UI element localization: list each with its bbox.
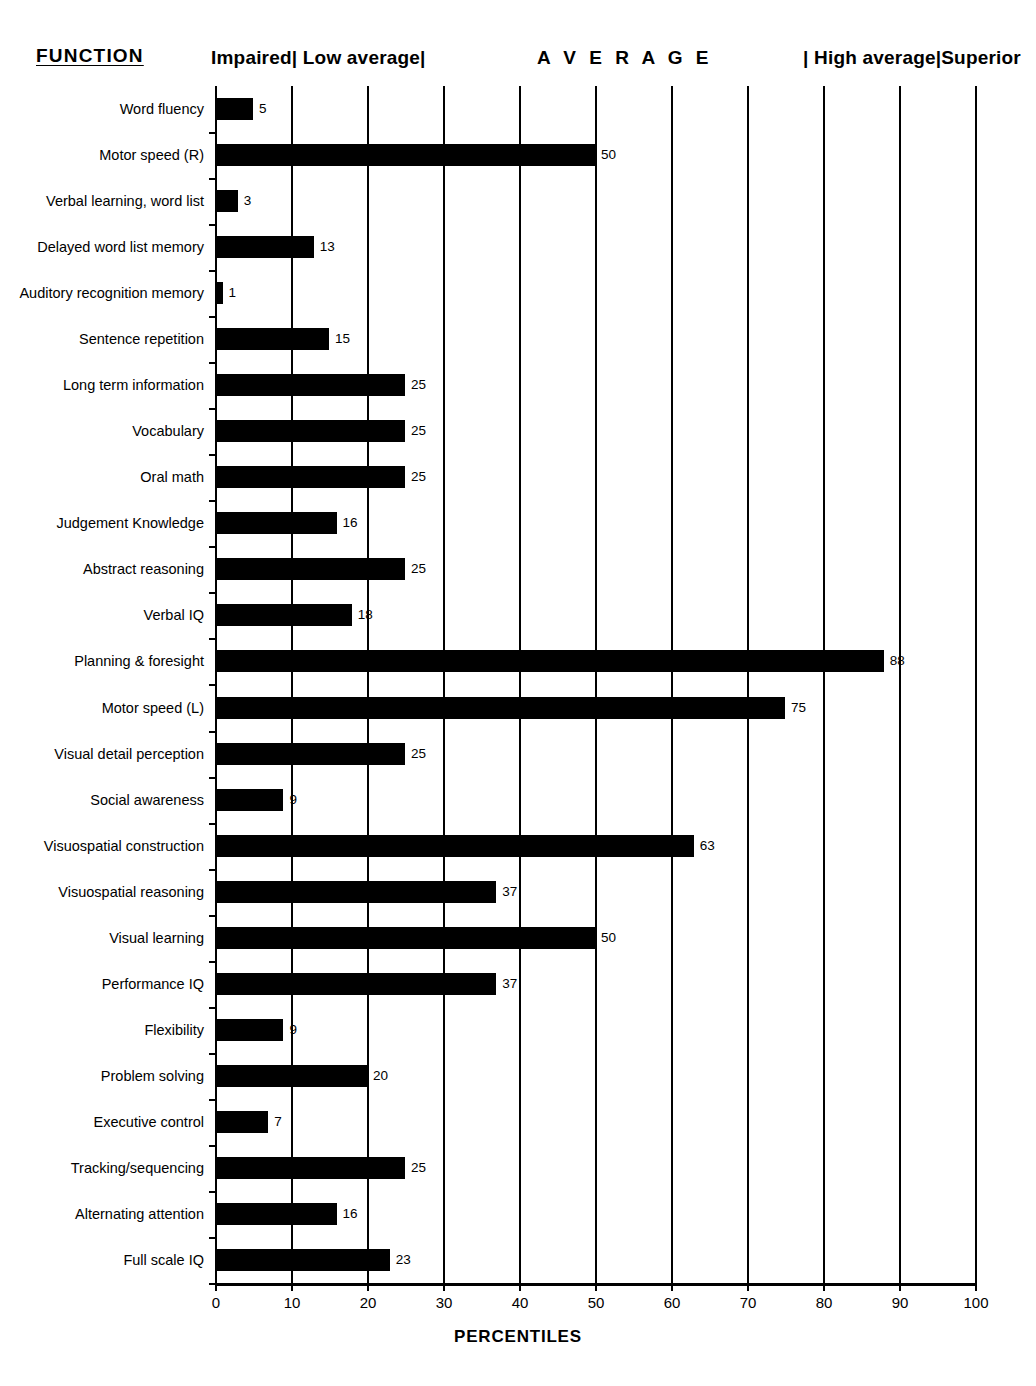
bar bbox=[215, 190, 238, 212]
bar bbox=[215, 236, 314, 258]
bar bbox=[215, 98, 253, 120]
bar-value-label: 23 bbox=[396, 1252, 411, 1268]
bar-value-label: 37 bbox=[502, 884, 517, 900]
category-label: Visuospatial construction bbox=[44, 837, 204, 854]
chart-row: Problem solving20 bbox=[215, 1053, 975, 1099]
x-tick-label: 70 bbox=[740, 1294, 757, 1312]
chart-row: Tracking/sequencing25 bbox=[215, 1145, 975, 1191]
band-label-high-average-superior: | High average|Superior bbox=[803, 46, 1021, 70]
chart-row: Flexibility9 bbox=[215, 1007, 975, 1053]
category-label: Sentence repetition bbox=[79, 331, 204, 348]
category-label: Delayed word list memory bbox=[37, 239, 204, 256]
category-label: Visuospatial reasoning bbox=[58, 883, 204, 900]
category-label: Executive control bbox=[94, 1113, 204, 1130]
bar-value-label: 13 bbox=[320, 239, 335, 255]
bar-value-label: 50 bbox=[601, 930, 616, 946]
chart-row: Visuospatial reasoning37 bbox=[215, 869, 975, 915]
bar-value-label: 16 bbox=[343, 1206, 358, 1222]
bar-value-label: 16 bbox=[343, 515, 358, 531]
chart-row: Vocabulary25 bbox=[215, 408, 975, 454]
category-label: Flexibility bbox=[144, 1021, 204, 1038]
category-label: Tracking/sequencing bbox=[71, 1159, 204, 1176]
bar bbox=[215, 650, 884, 672]
chart-row: Judgement Knowledge16 bbox=[215, 500, 975, 546]
category-label: Judgement Knowledge bbox=[56, 515, 204, 532]
x-tick-mark-30 bbox=[443, 1283, 445, 1291]
x-tick-label: 20 bbox=[360, 1294, 377, 1312]
category-label: Oral math bbox=[140, 469, 204, 486]
x-tick-mark-0 bbox=[215, 1283, 217, 1291]
bar bbox=[215, 558, 405, 580]
category-label: Word fluency bbox=[120, 101, 204, 118]
chart-row: Alternating attention16 bbox=[215, 1191, 975, 1237]
bar bbox=[215, 789, 283, 811]
category-label: Verbal IQ bbox=[144, 607, 204, 624]
chart-row: Long term information25 bbox=[215, 362, 975, 408]
category-label: Full scale IQ bbox=[123, 1251, 204, 1268]
x-axis-title: PERCENTILES bbox=[0, 1327, 1036, 1347]
bar-value-label: 9 bbox=[289, 792, 297, 808]
bar bbox=[215, 374, 405, 396]
bar-value-label: 88 bbox=[890, 653, 905, 669]
bar bbox=[215, 881, 496, 903]
chart-row: Oral math25 bbox=[215, 454, 975, 500]
bar bbox=[215, 420, 405, 442]
bar bbox=[215, 282, 223, 304]
bar-value-label: 18 bbox=[358, 607, 373, 623]
chart-row: Motor speed (R)50 bbox=[215, 132, 975, 178]
x-tick-mark-50 bbox=[595, 1283, 597, 1291]
chart-row: Visual detail perception25 bbox=[215, 731, 975, 777]
bar bbox=[215, 1065, 367, 1087]
plot-area: Word fluency5Motor speed (R)50Verbal lea… bbox=[215, 86, 975, 1283]
category-label: Vocabulary bbox=[132, 423, 204, 440]
x-axis-ticks: 0102030405060708090100 bbox=[215, 1283, 977, 1323]
band-label-impaired-low-average: Impaired| Low average| bbox=[211, 46, 426, 70]
percentile-bar-chart: FUNCTION Impaired| Low average| A V E R … bbox=[0, 0, 1036, 1386]
bar-value-label: 25 bbox=[411, 561, 426, 577]
x-tick-mark-10 bbox=[291, 1283, 293, 1291]
bar-value-label: 25 bbox=[411, 469, 426, 485]
bar-value-label: 50 bbox=[601, 147, 616, 163]
chart-row: Verbal IQ18 bbox=[215, 592, 975, 638]
chart-row: Verbal learning, word list3 bbox=[215, 178, 975, 224]
x-tick-mark-90 bbox=[899, 1283, 901, 1291]
bar bbox=[215, 743, 405, 765]
chart-row: Performance IQ37 bbox=[215, 961, 975, 1007]
chart-row: Planning & foresight88 bbox=[215, 638, 975, 684]
chart-row: Motor speed (L)75 bbox=[215, 685, 975, 731]
category-label: Visual detail perception bbox=[54, 745, 204, 762]
bar bbox=[215, 973, 496, 995]
bar-value-label: 25 bbox=[411, 746, 426, 762]
bar-value-label: 25 bbox=[411, 1160, 426, 1176]
x-tick-mark-20 bbox=[367, 1283, 369, 1291]
bar-value-label: 5 bbox=[259, 101, 267, 117]
bar bbox=[215, 328, 329, 350]
chart-row: Visuospatial construction63 bbox=[215, 823, 975, 869]
bar bbox=[215, 1203, 337, 1225]
category-label: Visual learning bbox=[109, 929, 204, 946]
bar-value-label: 63 bbox=[700, 838, 715, 854]
bar bbox=[215, 835, 694, 857]
x-tick-label: 0 bbox=[212, 1294, 220, 1312]
category-label: Social awareness bbox=[90, 791, 204, 808]
bar-value-label: 15 bbox=[335, 331, 350, 347]
category-label: Planning & foresight bbox=[74, 653, 204, 670]
x-tick-label: 100 bbox=[963, 1294, 988, 1312]
x-tick-label: 80 bbox=[816, 1294, 833, 1312]
bar-value-label: 25 bbox=[411, 423, 426, 439]
band-header-row: FUNCTION Impaired| Low average| A V E R … bbox=[0, 44, 1036, 74]
function-column-header: FUNCTION bbox=[36, 44, 144, 68]
category-label: Motor speed (R) bbox=[99, 147, 204, 164]
x-tick-label: 50 bbox=[588, 1294, 605, 1312]
x-tick-mark-100 bbox=[975, 1283, 977, 1291]
bar-value-label: 3 bbox=[244, 193, 252, 209]
chart-row: Social awareness9 bbox=[215, 777, 975, 823]
bar bbox=[215, 144, 595, 166]
band-label-average: A V E R A G E bbox=[537, 46, 713, 70]
x-tick-label: 60 bbox=[664, 1294, 681, 1312]
x-tick-label: 30 bbox=[436, 1294, 453, 1312]
bar bbox=[215, 466, 405, 488]
bar-value-label: 1 bbox=[229, 285, 237, 301]
category-label: Performance IQ bbox=[102, 975, 204, 992]
gridline-100 bbox=[975, 86, 977, 1283]
